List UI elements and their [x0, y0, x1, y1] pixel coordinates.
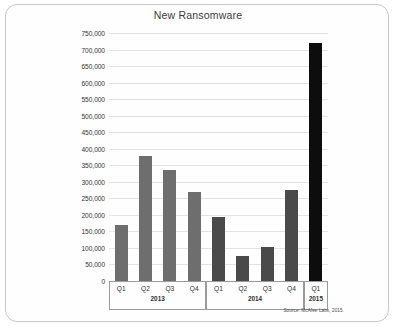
bar-2014-Q1[interactable] — [212, 217, 225, 281]
x-tick-label: Q1 — [305, 285, 327, 292]
y-axis-tick-label: 750,000 — [57, 30, 105, 37]
y-axis-tick-label: 650,000 — [57, 63, 105, 70]
y-axis-tick-label: 100,000 — [57, 244, 105, 251]
bar-2014-Q3[interactable] — [261, 247, 274, 281]
gridline — [109, 33, 328, 34]
gridline — [109, 149, 328, 150]
gridline — [109, 66, 328, 67]
bar-2015-Q1[interactable] — [309, 43, 322, 281]
x-tick-label: Q1 — [110, 285, 132, 292]
gridline — [109, 116, 328, 117]
bar-2013-Q4[interactable] — [188, 192, 201, 281]
y-axis-tick-label: 250,000 — [57, 195, 105, 202]
x-year-label: 2015 — [296, 295, 336, 302]
bar-2013-Q1[interactable] — [115, 225, 128, 281]
gridline — [109, 99, 328, 100]
bar-2013-Q3[interactable] — [163, 170, 176, 281]
chart-figure: New Ransomware 750,000700,000650,000600,… — [0, 0, 396, 330]
y-axis-tick-label: 150,000 — [57, 228, 105, 235]
y-axis-tick-label: 600,000 — [57, 79, 105, 86]
y-axis-tick-label: 550,000 — [57, 96, 105, 103]
y-axis-tick-label: 300,000 — [57, 178, 105, 185]
x-year-label: 2014 — [235, 295, 275, 302]
y-axis-tick-label: 700,000 — [57, 46, 105, 53]
y-axis-tick-label: 450,000 — [57, 129, 105, 136]
y-axis-tick-label: 50,000 — [57, 261, 105, 268]
gridline — [109, 83, 328, 84]
x-tick-label: Q2 — [135, 285, 157, 292]
y-axis-labels: 750,000700,000650,000600,000550,000500,0… — [55, 33, 105, 281]
bar-2013-Q2[interactable] — [139, 156, 152, 281]
plot-area — [109, 33, 328, 281]
x-tick-label: Q2 — [232, 285, 254, 292]
bar-2014-Q4[interactable] — [285, 190, 298, 281]
x-tick-label: Q3 — [256, 285, 278, 292]
y-axis-tick-label: 500,000 — [57, 112, 105, 119]
gridline — [109, 50, 328, 51]
bar-2014-Q2[interactable] — [236, 256, 249, 281]
x-tick-label: Q3 — [159, 285, 181, 292]
y-axis-tick-label: 350,000 — [57, 162, 105, 169]
x-tick-label: Q1 — [208, 285, 230, 292]
source-note: Source: McAfee Labs, 2015. — [283, 308, 344, 313]
x-tick-label: Q4 — [281, 285, 303, 292]
chart-title: New Ransomware — [0, 9, 396, 21]
y-axis-tick-label: 0 — [57, 278, 105, 285]
y-axis-tick-label: 400,000 — [57, 145, 105, 152]
x-axis-groups: Q1Q2Q3Q42013Q1Q2Q3Q42014Q12015 — [109, 281, 328, 311]
y-axis-tick-label: 200,000 — [57, 211, 105, 218]
x-year-label: 2013 — [138, 295, 178, 302]
gridline — [109, 132, 328, 133]
x-tick-label: Q4 — [183, 285, 205, 292]
